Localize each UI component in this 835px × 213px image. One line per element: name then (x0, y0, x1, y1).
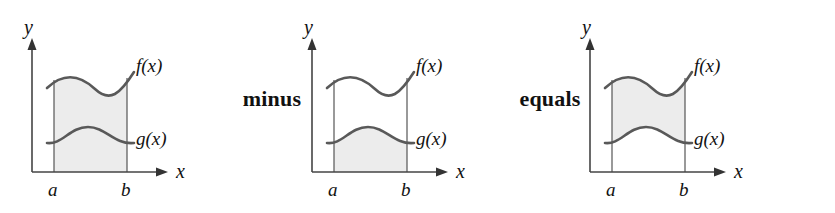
x-axis-arrowhead (714, 168, 726, 177)
panel-area-under-f: y x f(x) g(x) a b (0, 0, 215, 213)
bound-label-b: b (679, 179, 689, 200)
y-axis-label: y (22, 16, 33, 39)
bound-label-a: a (48, 179, 58, 200)
y-axis-label: y (580, 16, 591, 39)
bound-label-b: b (121, 179, 131, 200)
y-axis-arrowhead (28, 38, 37, 50)
bound-label-b: b (401, 179, 411, 200)
curve-label-f: f(x) (416, 55, 442, 77)
x-axis-arrowhead (436, 168, 448, 177)
curve-label-g: g(x) (694, 128, 725, 150)
curve-label-f: f(x) (694, 55, 720, 77)
bound-label-a: a (606, 179, 616, 200)
panel-area-between-curves: y x f(x) g(x) a b (558, 0, 773, 213)
curve-f (327, 72, 414, 96)
curve-label-g: g(x) (136, 128, 167, 150)
curve-label-f: f(x) (136, 55, 162, 77)
panel-area-under-g: y x f(x) g(x) a b (280, 0, 495, 213)
y-axis-label: y (302, 16, 313, 39)
curve-label-g: g(x) (416, 128, 447, 150)
shaded-region-between-curves (612, 78, 685, 142)
y-axis-arrowhead (308, 38, 317, 50)
shaded-region-under-g (334, 128, 407, 172)
area-between-curves-figure: y x f(x) g(x) a b minus y x f(x) g(x) a (0, 0, 835, 213)
x-axis-label: x (175, 160, 185, 182)
x-axis-label: x (455, 160, 465, 182)
x-axis-arrowhead (156, 168, 168, 177)
x-axis-label: x (733, 160, 743, 182)
bound-label-a: a (328, 179, 338, 200)
y-axis-arrowhead (586, 38, 595, 50)
